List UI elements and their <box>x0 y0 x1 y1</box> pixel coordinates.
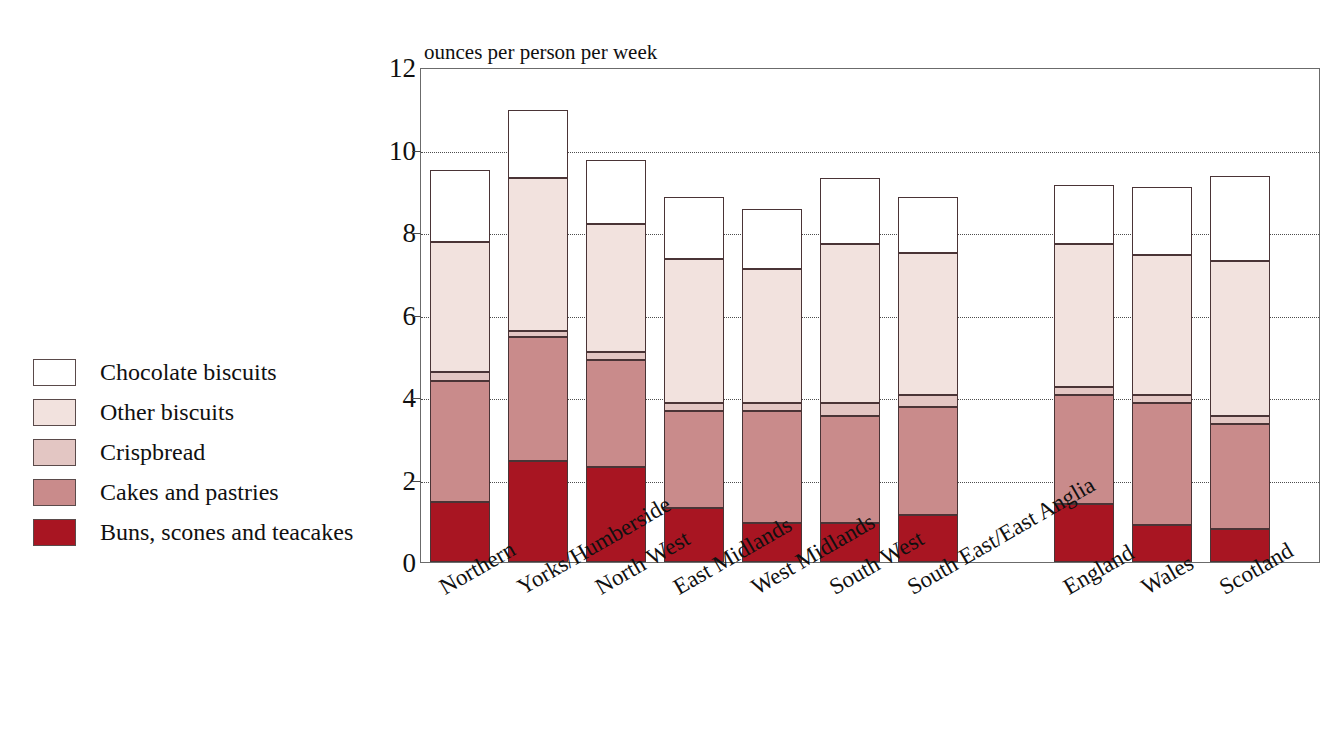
y-tick-mark <box>412 151 421 152</box>
x-tick-label: Scotland <box>1215 538 1298 601</box>
x-tick-label: Wales <box>1137 550 1198 600</box>
x-tick-label: Northern <box>435 536 520 600</box>
y-tick-mark <box>412 316 421 317</box>
y-tick-mark <box>412 481 421 482</box>
y-tick-mark <box>412 233 421 234</box>
x-tick-label: England <box>1059 540 1138 601</box>
y-tick-mark <box>412 398 421 399</box>
chart-root: Chocolate biscuitsOther biscuitsCrispbre… <box>0 0 1323 752</box>
x-axis-tick-labels: NorthernYorks/HumbersideNorth WestEast M… <box>0 0 1323 752</box>
